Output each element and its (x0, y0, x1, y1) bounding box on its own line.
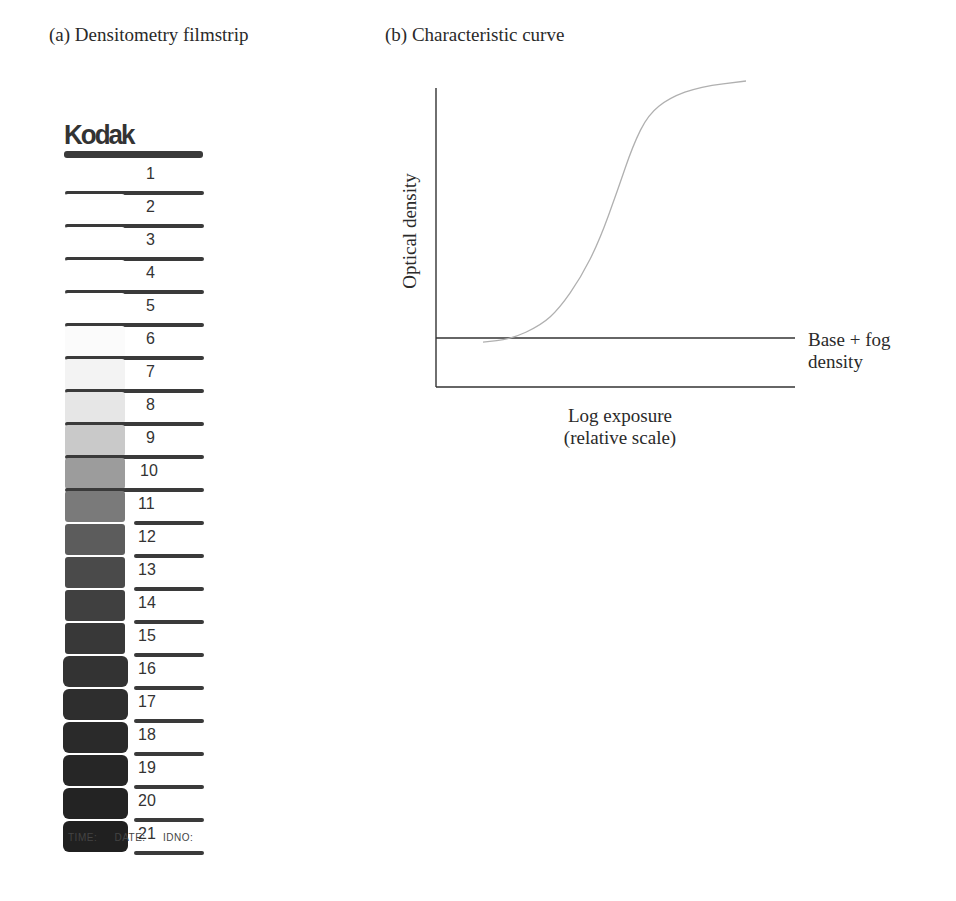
density-patch (63, 722, 128, 753)
density-patch (65, 425, 125, 456)
densitometry-filmstrip: Kodak 123456789101112131415161718192021 … (60, 118, 220, 848)
y-axis-label: Optical density (399, 151, 421, 311)
density-patch (65, 161, 125, 192)
step-number: 5 (146, 297, 155, 315)
logo-underline (64, 151, 203, 158)
density-patch (65, 227, 125, 258)
density-patch (65, 491, 125, 522)
base-fog-label-line2: density (808, 351, 948, 373)
density-patch (65, 590, 125, 621)
density-patch (63, 755, 128, 786)
step-number: 1 (146, 165, 155, 183)
strip-footer: TIME: DATE: IDNO: (68, 832, 193, 843)
step-number: 17 (138, 693, 156, 711)
density-patch (65, 557, 125, 588)
density-patch (65, 260, 125, 291)
step-4: 4 (60, 259, 220, 292)
density-patch (65, 293, 125, 324)
step-18: 18 (60, 721, 220, 754)
density-patch (63, 656, 128, 687)
step-number: 8 (146, 396, 155, 414)
density-patch (65, 326, 125, 357)
step-5: 5 (60, 292, 220, 325)
x-axis-label-line1: Log exposure (520, 405, 720, 427)
step-20: 20 (60, 787, 220, 820)
step-number: 9 (146, 429, 155, 447)
step-14: 14 (60, 589, 220, 622)
step-number: 20 (138, 792, 156, 810)
step-19: 19 (60, 754, 220, 787)
step-10: 10 (60, 457, 220, 490)
density-patch (65, 359, 125, 390)
step-8: 8 (60, 391, 220, 424)
step-11: 11 (60, 490, 220, 523)
step-16: 16 (60, 655, 220, 688)
step-3: 3 (60, 226, 220, 259)
x-axis-label: Log exposure (relative scale) (520, 405, 720, 449)
step-number: 6 (146, 330, 155, 348)
step-13: 13 (60, 556, 220, 589)
base-fog-label-line1: Base + fog (808, 329, 948, 351)
characteristic-curve (483, 81, 746, 342)
base-fog-label: Base + fog density (808, 329, 948, 373)
step-number: 16 (138, 660, 156, 678)
step-number: 4 (146, 264, 155, 282)
panel-a-title: (a) Densitometry filmstrip (49, 24, 248, 46)
step-2: 2 (60, 193, 220, 226)
step-number: 3 (146, 231, 155, 249)
density-patch (65, 392, 125, 423)
x-axis-label-line2: (relative scale) (520, 427, 720, 449)
panel-b-title: (b) Characteristic curve (385, 24, 564, 46)
density-patch (65, 524, 125, 555)
step-number: 12 (138, 528, 156, 546)
step-number: 13 (138, 561, 156, 579)
step-17: 17 (60, 688, 220, 721)
step-number: 15 (138, 627, 156, 645)
step-15: 15 (60, 622, 220, 655)
step-number: 7 (146, 363, 155, 381)
step-divider (134, 851, 204, 855)
step-number: 2 (146, 198, 155, 216)
step-number: 10 (140, 462, 158, 480)
step-number: 11 (138, 495, 155, 513)
density-patch (65, 458, 125, 489)
density-patch (63, 689, 128, 720)
density-patch (65, 623, 125, 654)
step-number: 18 (138, 726, 156, 744)
kodak-logo: Kodak (64, 119, 133, 152)
step-12: 12 (60, 523, 220, 556)
density-patch (63, 788, 128, 819)
step-number: 19 (138, 759, 156, 777)
step-number: 14 (138, 594, 156, 612)
step-6: 6 (60, 325, 220, 358)
step-9: 9 (60, 424, 220, 457)
step-7: 7 (60, 358, 220, 391)
density-patch (65, 194, 125, 225)
step-1: 1 (60, 160, 220, 193)
